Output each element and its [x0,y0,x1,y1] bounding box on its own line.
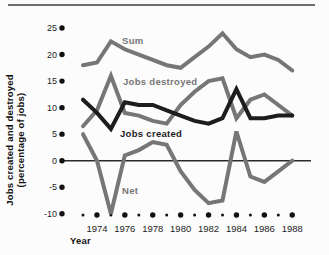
x-tick-dot-1977-minor [137,214,140,217]
series-line-net [83,132,292,214]
figure: Jobs created and destroyed (percentage o… [0,0,329,255]
series-label-jobs-created: Jobs created [120,128,182,139]
x-tick-dot-1985-minor [249,214,252,217]
x-tick-dot-1988-major [290,212,295,217]
series-label-sum: Sum [122,35,144,46]
y-tick-label--5: -5 [49,182,57,192]
series-lines [83,33,292,214]
x-tick-dot-1980-major [178,212,183,217]
series-line-sum [83,33,292,70]
y-tick-label-25: 25 [47,23,57,33]
y-tick-dot--10 [59,211,64,216]
y-tick-label-10: 10 [47,103,57,113]
x-tick-dot-1987-minor [277,214,280,217]
x-tick-label-1982: 1982 [198,223,219,234]
y-tick-dot-0 [59,158,64,163]
x-tick-dot-1983-minor [221,214,224,217]
x-tick-label-1980: 1980 [170,223,191,234]
x-tick-dot-1984-major [234,212,239,217]
x-tick-dot-1974-major [94,212,99,217]
y-axis-title-line1: Jobs created and destroyed [4,74,15,205]
x-tick-dot-1973-minor [82,214,85,217]
y-tick-dot-20 [59,52,64,57]
x-axis-labels: 19741976197819801982198419861988 [86,223,302,234]
line-chart: Jobs created and destroyed (percentage o… [0,0,329,255]
y-axis-title-line2: (percentage of jobs) [15,93,26,188]
y-tick-label-15: 15 [47,76,57,86]
x-tick-label-1976: 1976 [114,223,135,234]
series-label-net: Net [122,185,139,196]
y-tick-dot-10 [59,105,64,110]
y-tick-label-20: 20 [47,50,57,60]
x-tick-dot-1981-minor [193,214,196,217]
x-tick-dot-1979-minor [165,214,168,217]
x-tick-label-1984: 1984 [226,223,247,234]
y-axis-ticks: 2520151050-5-10 [44,23,65,219]
x-tick-dot-1982-major [206,212,211,217]
y-tick-dot--5 [59,185,64,190]
x-tick-label-1978: 1978 [142,223,163,234]
y-tick-label-0: 0 [52,156,57,166]
x-tick-dot-1986-major [262,212,267,217]
y-tick-dot-25 [59,25,64,30]
x-axis-title: Year [70,235,91,246]
y-tick-dot-15 [59,78,64,83]
x-axis-dots [82,212,295,217]
x-tick-label-1986: 1986 [254,223,275,234]
y-tick-dot-5 [59,131,64,136]
x-tick-label-1974: 1974 [86,223,107,234]
x-tick-dot-1978-major [150,212,155,217]
x-tick-label-1988: 1988 [282,223,303,234]
x-tick-dot-1976-major [122,212,127,217]
y-tick-label--10: -10 [44,209,57,219]
y-tick-label-5: 5 [52,129,57,139]
series-label-jobs-destroyed: Jobs destroyed [123,76,197,87]
